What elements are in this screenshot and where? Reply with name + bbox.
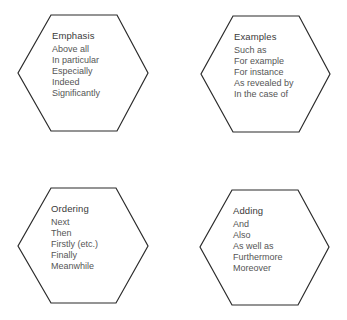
list-item: Especially [52, 66, 100, 77]
list-item: Then [51, 228, 98, 239]
list-item: Meanwhile [51, 261, 98, 272]
list-item: For instance [234, 67, 294, 78]
list-item: Such as [234, 45, 294, 56]
list-item: As well as [233, 241, 283, 252]
group-items: Such as For example For instance As reve… [234, 45, 294, 100]
group-items: Next Then Firstly (etc.) Finally Meanwhi… [51, 217, 98, 272]
list-item: Above all [52, 44, 100, 55]
list-item: Furthermore [233, 252, 283, 263]
list-item: Also [233, 230, 283, 241]
list-item: Moreover [233, 263, 283, 274]
group-items: Above all In particular Especially Indee… [52, 44, 100, 99]
group-title: Examples [234, 31, 294, 43]
group-ordering: Ordering Next Then Firstly (etc.) Finall… [51, 203, 98, 272]
list-item: In the case of [234, 89, 294, 100]
list-item: As revealed by [234, 78, 294, 89]
list-item: Indeed [52, 77, 100, 88]
group-title: Ordering [51, 203, 98, 215]
group-title: Adding [233, 205, 283, 217]
list-item: For example [234, 56, 294, 67]
list-item: And [233, 219, 283, 230]
list-item: Next [51, 217, 98, 228]
group-adding: Adding And Also As well as Furthermore M… [233, 205, 283, 274]
list-item: Significantly [52, 88, 100, 99]
list-item: Finally [51, 250, 98, 261]
group-title: Emphasis [52, 30, 100, 42]
group-items: And Also As well as Furthermore Moreover [233, 219, 283, 274]
group-emphasis: Emphasis Above all In particular Especia… [52, 30, 100, 99]
list-item: In particular [52, 55, 100, 66]
list-item: Firstly (etc.) [51, 239, 98, 250]
group-examples: Examples Such as For example For instanc… [234, 31, 294, 100]
